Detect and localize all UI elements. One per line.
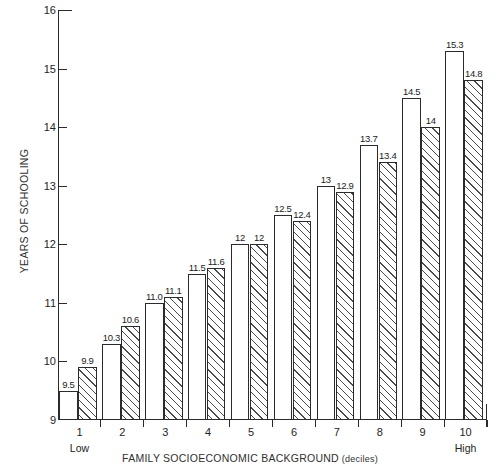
x-tick-label: 3 bbox=[145, 426, 185, 438]
x-tick-label: 8 bbox=[360, 426, 400, 438]
bar-value-label: 15.3 bbox=[446, 39, 463, 50]
x-tick-mark bbox=[229, 420, 230, 427]
x-tick-mark bbox=[100, 420, 101, 427]
x-tick-label: 10 bbox=[446, 426, 486, 438]
x-tick-label: 4 bbox=[188, 426, 228, 438]
x-tick-label: 5 bbox=[231, 426, 271, 438]
y-tick-label: 10 bbox=[32, 355, 56, 367]
x-tick-mark bbox=[358, 420, 359, 427]
y-axis-title: YEARS OF SCHOOLING bbox=[18, 121, 30, 301]
y-tick-label-wrap: 12 bbox=[30, 244, 56, 245]
bar-value-label: 14.8 bbox=[465, 68, 482, 79]
y-tick-label: 16 bbox=[32, 4, 56, 16]
x-tick-label: 7 bbox=[317, 426, 357, 438]
y-tick-label-wrap: 10 bbox=[30, 361, 56, 362]
y-tick-mark bbox=[58, 127, 67, 128]
bar-open bbox=[445, 51, 464, 420]
x-tick-label: 6 bbox=[274, 426, 314, 438]
y-tick-label: 12 bbox=[32, 238, 56, 250]
bar-group: 15.314.8 bbox=[58, 10, 487, 420]
x-tick-mark bbox=[315, 420, 316, 427]
plot-area: 9.59.910.310.611.011.111.511.6121212.512… bbox=[58, 10, 487, 420]
x-tick-mark bbox=[444, 420, 445, 427]
x-tick-mark bbox=[143, 420, 144, 427]
chart-root: YEARS OF SCHOOLING 910111213141516 9.59.… bbox=[0, 0, 500, 469]
x-tick-mark bbox=[401, 420, 402, 427]
x-tick-label: 9 bbox=[403, 426, 443, 438]
y-tick-mark bbox=[58, 303, 67, 304]
x-axis-title-suffix: (deciles) bbox=[339, 454, 378, 464]
x-tick-label: 1 bbox=[59, 426, 99, 438]
y-tick-label: 15 bbox=[32, 63, 56, 75]
y-tick-label-wrap: 16 bbox=[30, 10, 56, 11]
y-tick-mark bbox=[58, 244, 67, 245]
x-axis-title: FAMILY SOCIOECONOMIC BACKGROUND (deciles… bbox=[0, 452, 500, 464]
y-tick-mark bbox=[58, 69, 67, 70]
x-tick-label: 2 bbox=[102, 426, 142, 438]
y-tick-label: 9 bbox=[32, 414, 56, 426]
x-axis-title-main: FAMILY SOCIOECONOMIC BACKGROUND bbox=[122, 452, 339, 464]
y-tick-label-wrap: 14 bbox=[30, 127, 56, 128]
y-tick-label-wrap: 9 bbox=[30, 420, 56, 421]
y-tick-mark bbox=[58, 186, 67, 187]
x-tick-mark bbox=[486, 420, 487, 427]
x-tick-mark bbox=[186, 420, 187, 427]
y-tick-label-wrap: 15 bbox=[30, 69, 56, 70]
y-tick-label-wrap: 11 bbox=[30, 303, 56, 304]
x-tick-mark bbox=[272, 420, 273, 427]
bar-hatched bbox=[464, 80, 483, 420]
y-tick-label-wrap: 13 bbox=[30, 186, 56, 187]
y-tick-label: 13 bbox=[32, 180, 56, 192]
y-tick-mark bbox=[58, 361, 67, 362]
y-tick-label: 11 bbox=[32, 297, 56, 309]
y-tick-label: 14 bbox=[32, 121, 56, 133]
